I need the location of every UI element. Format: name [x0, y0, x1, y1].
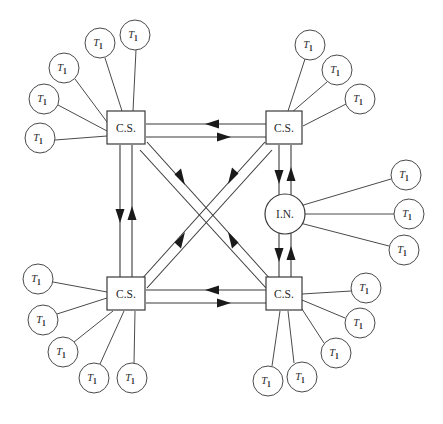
- spoke-line: [302, 300, 345, 318]
- trunk-link-bottom: [146, 286, 266, 308]
- node-cs-bottom-right[interactable]: C.S.: [266, 277, 302, 310]
- arrow-head-up: [287, 246, 296, 260]
- spoke-line: [303, 104, 346, 126]
- arrow-head-upleft: [175, 169, 186, 186]
- spoke-line: [74, 311, 113, 342]
- terminal-node[interactable]: T1: [79, 363, 109, 393]
- terminal-node[interactable]: T1: [28, 305, 58, 335]
- terminal-node[interactable]: T1: [389, 235, 419, 265]
- node-in-right[interactable]: I.N.: [265, 194, 305, 234]
- spoke-line: [55, 136, 107, 140]
- node-label: C.S.: [274, 288, 294, 300]
- arrow-head-left: [205, 286, 219, 295]
- trunk-link-left: [116, 145, 137, 277]
- node-cs-top-left[interactable]: C.S.: [107, 111, 145, 144]
- terminal-node[interactable]: T1: [85, 28, 115, 58]
- terminal-node[interactable]: T1: [351, 273, 381, 303]
- spoke-line: [300, 306, 324, 343]
- arrow-head-upright: [228, 168, 239, 185]
- node-label: C.S.: [116, 122, 136, 134]
- arrow-head-right: [217, 299, 231, 308]
- node-cs-top-right[interactable]: C.S.: [266, 111, 302, 144]
- spoke-line: [58, 105, 107, 131]
- trunk-line: [140, 150, 266, 288]
- network-diagram-canvas: C.S. C.S. C.S. C.S. I.N. T1: [0, 0, 443, 424]
- trunk-link-right-lower: [275, 233, 296, 277]
- spoke-line: [300, 223, 389, 246]
- trunk-line: [147, 142, 272, 281]
- arrow-head-down: [116, 209, 125, 223]
- arrow-head-downright: [228, 232, 239, 249]
- terminal-node[interactable]: T1: [391, 160, 421, 190]
- spoke-line: [302, 291, 351, 294]
- terminal-node[interactable]: T1: [345, 84, 375, 114]
- terminal-node[interactable]: T1: [287, 362, 317, 392]
- spoke-line: [53, 282, 107, 292]
- trunk-link-diagonal-b: [140, 142, 272, 288]
- spoke-line: [272, 311, 280, 366]
- network-diagram: C.S. C.S. C.S. C.S. I.N. T1: [0, 0, 443, 424]
- arrow-head-up: [128, 206, 137, 220]
- terminal-node[interactable]: T1: [29, 84, 59, 114]
- terminal-spokes-group: [53, 50, 394, 366]
- node-label: C.S.: [274, 122, 294, 134]
- terminal-node[interactable]: T1: [120, 20, 150, 50]
- node-label: I.N.: [276, 208, 294, 220]
- terminals-group: T1 T1 T1 T1 T1 T1: [23, 20, 424, 396]
- trunk-link-right-upper: [275, 145, 296, 195]
- arrow-head-down: [275, 170, 284, 184]
- terminal-node[interactable]: T1: [295, 30, 325, 60]
- spoke-line: [300, 179, 391, 206]
- terminal-node[interactable]: T1: [345, 308, 375, 338]
- arrow-head-up: [287, 167, 296, 181]
- spoke-line: [288, 311, 294, 363]
- arrow-head-left: [205, 120, 219, 129]
- terminal-node[interactable]: T1: [321, 338, 351, 368]
- spoke-line: [134, 311, 135, 363]
- spoke-line: [105, 58, 122, 111]
- spoke-line: [75, 79, 110, 126]
- terminal-node[interactable]: T1: [253, 366, 283, 396]
- arrow-head-right: [217, 133, 231, 142]
- terminal-node[interactable]: T1: [394, 199, 424, 229]
- spoke-line: [57, 298, 107, 314]
- trunk-line: [140, 142, 265, 281]
- arrow-head-down: [275, 248, 284, 262]
- node-label: C.S.: [116, 288, 136, 300]
- terminal-node[interactable]: T1: [25, 123, 55, 153]
- terminal-node[interactable]: T1: [23, 264, 53, 294]
- node-cs-bottom-left[interactable]: C.S.: [107, 277, 145, 310]
- terminal-node[interactable]: T1: [48, 337, 78, 367]
- spoke-line: [133, 50, 136, 111]
- terminal-node[interactable]: T1: [117, 363, 147, 393]
- terminal-node[interactable]: T1: [322, 55, 352, 85]
- trunk-line: [147, 150, 272, 288]
- trunk-link-diagonal-a: [140, 142, 272, 288]
- terminal-node[interactable]: T1: [49, 53, 79, 83]
- trunk-link-top: [146, 120, 266, 142]
